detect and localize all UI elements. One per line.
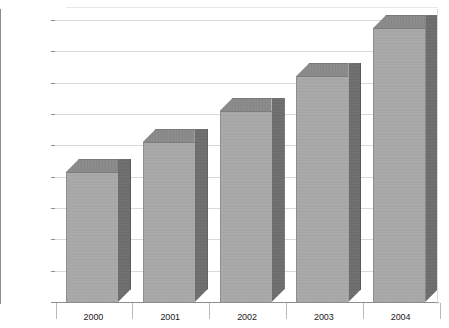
x-axis-label-2003: 2003 — [284, 312, 364, 322]
y-axis-tick — [51, 271, 55, 272]
bar-top-face — [373, 15, 425, 28]
bar-top-face — [143, 129, 195, 142]
bar-top-face — [220, 98, 272, 111]
bar-2001 — [143, 129, 195, 302]
x-axis-label-2001: 2001 — [130, 312, 210, 322]
bar-2003 — [296, 63, 348, 302]
x-axis-label-2002: 2002 — [207, 312, 287, 322]
bar-front-face — [143, 142, 195, 302]
bar-side-face — [195, 129, 208, 302]
y-axis-tick — [51, 145, 55, 146]
bar-top-face — [66, 159, 118, 172]
y-axis-tick — [51, 20, 55, 21]
backplane-top-edge — [66, 7, 438, 8]
plot-right-border — [437, 9, 438, 304]
bar-chart: $450$400$350$300$250$200$150$100$50$0 20… — [0, 0, 449, 328]
bar-front-face — [66, 172, 118, 302]
bar-side-face — [118, 159, 131, 302]
bar-front-face — [296, 76, 348, 302]
y-axis-line — [0, 9, 1, 304]
y-axis-tick — [51, 51, 55, 52]
y-axis-tick — [51, 208, 55, 209]
bar-2004 — [373, 15, 425, 302]
bar-front-face — [373, 28, 425, 302]
bar-2002 — [220, 98, 272, 302]
bar-side-face — [272, 98, 285, 302]
y-axis-tick — [51, 177, 55, 178]
bar-top-face — [296, 63, 348, 76]
bar-2000 — [66, 159, 118, 302]
bar-front-face — [220, 111, 272, 302]
x-axis-label-2000: 2000 — [53, 312, 133, 322]
x-axis-line — [55, 302, 439, 303]
x-axis-label-2004: 2004 — [361, 312, 441, 322]
y-axis-tick — [51, 239, 55, 240]
bar-side-face — [348, 63, 361, 302]
y-axis-tick — [51, 83, 55, 84]
plot-area — [55, 9, 438, 303]
y-axis-tick — [51, 114, 55, 115]
